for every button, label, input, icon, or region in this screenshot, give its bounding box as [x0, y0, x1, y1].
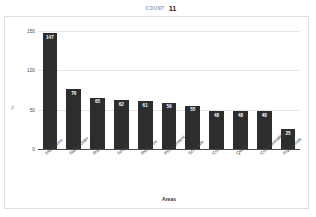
- chart-header: COUNT 11: [0, 0, 316, 16]
- x-axis-title: Areas: [38, 196, 300, 202]
- y-axis-tick-label: 100: [13, 68, 35, 73]
- y-axis-tick-label: 50: [13, 107, 35, 112]
- x-axis-tick-label: Resource: [140, 139, 158, 156]
- x-axis-tick-label: Integration: [44, 137, 63, 155]
- x-axis-tick-label: Cost: [211, 146, 221, 156]
- chart-card: % 050100150 14776656261595548484825 Inte…: [4, 16, 309, 209]
- y-axis-tick-label: 150: [13, 29, 35, 34]
- x-axis-tick-label: Scope: [116, 143, 129, 155]
- x-axis-tick-label: Schedule: [187, 139, 205, 156]
- x-axis-tick-label: Risk: [92, 146, 102, 156]
- x-axis-tick-labels: IntegrationStakeholderRiskScopeResourceP…: [38, 17, 300, 208]
- x-axis-tick-label: Framework: [282, 137, 302, 156]
- y-axis-tick-label: 0: [13, 147, 35, 152]
- x-axis-tick-label: Stakeholder: [68, 136, 90, 156]
- x-axis-tick-label: Procurement: [163, 134, 186, 155]
- x-axis-tick-label: Quality: [235, 142, 249, 155]
- bar-chart: % 050100150 14776656261595548484825 Inte…: [5, 17, 308, 208]
- count-label: COUNT: [146, 6, 165, 11]
- count-value: 11: [169, 4, 177, 13]
- y-axis-tick-labels: 050100150: [13, 17, 35, 208]
